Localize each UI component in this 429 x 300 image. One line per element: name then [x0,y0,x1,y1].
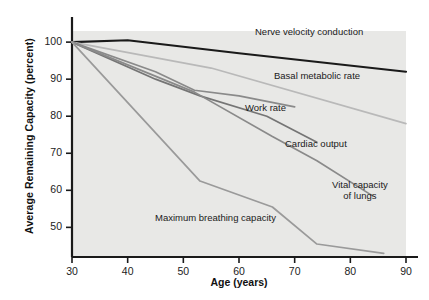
series-label-cardiac-output: Cardiac output [285,139,347,150]
series-label-basal-metabolic-rate: Basal metabolic rate [274,71,360,82]
y-tick-label: 60 [8,183,62,195]
x-tick-label: 70 [275,265,315,277]
x-axis-title: Age (years) [72,276,406,288]
x-tick-label: 80 [330,265,370,277]
x-tick-label: 30 [52,265,92,277]
series-label-maximum-breathing-capacity: Maximum breathing capacity [155,213,276,224]
x-tick-label: 60 [219,265,259,277]
series-label-line-1: Vital capacity [332,180,388,191]
y-tick-label: 90 [8,72,62,84]
series-label-work-rate: Work rate [245,103,286,114]
y-tick-label: 70 [8,146,62,158]
chart-plot-area [0,0,429,300]
x-tick-label: 90 [386,265,426,277]
series-label-line-2: of lungs [332,191,388,202]
x-tick-label: 40 [108,265,148,277]
series-label-vital-capacity-of-lungs: Vital capacityof lungs [332,180,388,201]
x-tick-label: 50 [163,265,203,277]
y-tick-label: 100 [8,35,62,47]
y-tick-label: 80 [8,109,62,121]
y-tick-label: 50 [8,220,62,232]
series-label-nerve-velocity-conduction: Nerve velocity conduction [255,27,363,38]
chart-figure: Average Remaining Capacity (percent) Age… [0,0,429,300]
